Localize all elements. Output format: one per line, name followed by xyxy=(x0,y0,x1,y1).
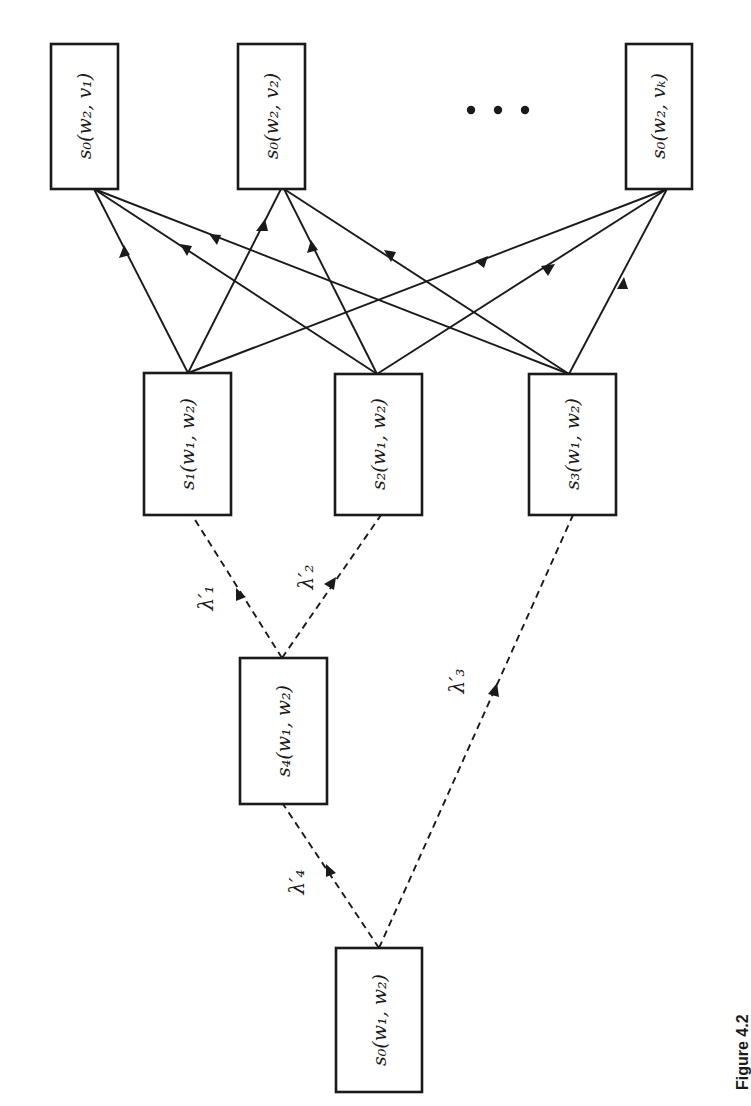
lambda-4-label: λ′₄ xyxy=(285,869,309,895)
node-s0-w2-v2: s₀(w₂, v₂) xyxy=(238,44,305,189)
node-s0-w2-v1: s₀(w₂, v₁) xyxy=(51,44,118,189)
node-s0-w1-w2: s₀(w₁, w₂) xyxy=(336,948,422,1092)
ellipsis-dot xyxy=(494,106,502,114)
node-s0-w2-vk: s₀(w₂, vₖ) xyxy=(626,44,692,189)
arrowhead-icon xyxy=(236,588,246,601)
node-label: s₂(w₁, w₂) xyxy=(367,398,389,490)
ellipsis-dot xyxy=(521,106,529,114)
arrowhead-icon xyxy=(475,256,488,268)
edge-s1-vk xyxy=(188,189,667,373)
node-label: s₀(w₂, vₖ) xyxy=(647,73,669,159)
edge-s2-v1 xyxy=(94,189,377,374)
lambda-1-label: λ′₁ xyxy=(194,585,218,611)
node-label: s₀(w₁, w₂) xyxy=(368,974,390,1066)
node-label: s₀(w₂, v₁) xyxy=(73,73,95,160)
lambda-2-label: λ′₂ xyxy=(294,564,318,590)
arrowhead-icon xyxy=(209,234,221,245)
node-label: s₄(w₁, w₂) xyxy=(272,685,294,777)
node-s2-w1-w2: s₂(w₁, w₂) xyxy=(335,374,422,515)
edge-s3-v2 xyxy=(284,189,569,374)
arrowhead-icon xyxy=(180,244,192,256)
solid-arrowheads xyxy=(119,219,628,289)
lambda-3-label: λ′₃ xyxy=(445,668,469,694)
arrowhead-icon xyxy=(307,240,318,253)
edge-s3-vk xyxy=(569,189,667,374)
decision-tree-diagram: λ′₁ λ′₂ λ′₃ λ′₄ s₀(w₂, v₁) s₀(w₂, v₂) s₀… xyxy=(0,0,751,1106)
edge-s0-s3 xyxy=(379,515,573,948)
ellipsis-dot xyxy=(467,106,475,114)
node-label: s₃(w₁, w₂) xyxy=(561,398,583,490)
node-s3-w1-w2: s₃(w₁, w₂) xyxy=(529,374,616,515)
arrowhead-icon xyxy=(256,219,268,231)
edge-s3-v1 xyxy=(94,189,569,374)
node-s4-w1-w2: s₄(w₁, w₂) xyxy=(240,658,327,804)
ellipsis xyxy=(467,106,529,114)
arrowhead-icon xyxy=(541,264,555,276)
solid-edges xyxy=(94,189,667,374)
node-label: s₀(w₂, v₂) xyxy=(260,73,282,160)
edge-s1-v1 xyxy=(94,189,188,373)
node-label: s₁(w₁, w₂) xyxy=(176,398,198,490)
node-s1-w1-w2: s₁(w₁, w₂) xyxy=(144,373,231,515)
figure-caption: Figure 4.2 xyxy=(734,1014,751,1090)
